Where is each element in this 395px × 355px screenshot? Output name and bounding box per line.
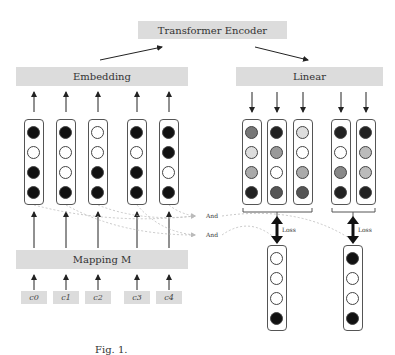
- up-arrows-tokens: [34, 275, 169, 290]
- token-c3: c3: [124, 291, 150, 304]
- node-circle: [270, 126, 283, 139]
- node-circle: [270, 252, 283, 265]
- node-circle: [270, 186, 283, 199]
- node-circle: [359, 186, 372, 199]
- node-circle: [91, 186, 104, 199]
- output-column-3: [331, 119, 351, 205]
- dashed-connectors: [34, 205, 352, 240]
- node-circle: [245, 166, 258, 179]
- node-circle: [162, 146, 175, 159]
- node-circle: [245, 146, 258, 159]
- up-arrows-mapping: [34, 212, 169, 248]
- loss-label-2: Loss: [358, 226, 372, 233]
- transformer-encoder-label: Transformer Encoder: [158, 25, 267, 36]
- node-circle: [162, 186, 175, 199]
- figure-caption: Fig. 1.: [95, 344, 127, 355]
- token-c4: c4: [156, 291, 182, 304]
- node-circle: [91, 146, 104, 159]
- output-column-0: [242, 119, 262, 205]
- node-circle: [346, 312, 359, 325]
- node-circle: [296, 146, 309, 159]
- node-circle: [334, 126, 347, 139]
- node-circle: [270, 292, 283, 305]
- node-circle: [130, 146, 143, 159]
- token-c1: c1: [53, 291, 79, 304]
- embedding-label: Embedding: [73, 71, 131, 82]
- node-circle: [130, 126, 143, 139]
- node-circle: [27, 186, 40, 199]
- node-circle: [91, 126, 104, 139]
- input-column-3: [127, 119, 147, 205]
- node-circle: [334, 186, 347, 199]
- input-column-1: [56, 119, 76, 205]
- node-circle: [162, 166, 175, 179]
- node-circle: [334, 146, 347, 159]
- down-arrows-linear: [252, 92, 366, 112]
- node-circle: [245, 186, 258, 199]
- node-circle: [27, 126, 40, 139]
- node-circle: [27, 146, 40, 159]
- output-column-1: [267, 119, 287, 205]
- node-circle: [162, 126, 175, 139]
- linear-label: Linear: [293, 71, 326, 82]
- node-circle: [59, 166, 72, 179]
- node-circle: [270, 272, 283, 285]
- node-circle: [59, 186, 72, 199]
- mapping-block: Mapping M: [16, 250, 188, 269]
- node-circle: [334, 166, 347, 179]
- mapping-label: Mapping M: [73, 254, 131, 265]
- node-circle: [296, 126, 309, 139]
- arrow-embedding-to-transformer: [100, 47, 162, 60]
- embedding-block: Embedding: [16, 67, 188, 86]
- and-label-2: And: [206, 231, 218, 238]
- target-column-0: [267, 245, 287, 331]
- input-column-2: [88, 119, 108, 205]
- node-circle: [346, 272, 359, 285]
- output-column-2: [293, 119, 313, 205]
- node-circle: [245, 126, 258, 139]
- loss-label-1: Loss: [282, 226, 296, 233]
- output-column-4: [356, 119, 376, 205]
- node-circle: [130, 186, 143, 199]
- node-circle: [130, 166, 143, 179]
- token-c0: c0: [21, 291, 47, 304]
- node-circle: [359, 166, 372, 179]
- linear-block: Linear: [236, 67, 383, 86]
- node-circle: [59, 146, 72, 159]
- node-circle: [359, 146, 372, 159]
- node-circle: [27, 166, 40, 179]
- node-circle: [270, 146, 283, 159]
- node-circle: [346, 292, 359, 305]
- node-circle: [270, 312, 283, 325]
- node-circle: [346, 252, 359, 265]
- target-column-1: [343, 245, 363, 331]
- transformer-encoder-block: Transformer Encoder: [138, 21, 287, 39]
- and-label-1: And: [206, 212, 218, 219]
- token-c2: c2: [85, 291, 111, 304]
- up-arrows-embedding: [34, 92, 169, 112]
- node-circle: [296, 186, 309, 199]
- input-column-4: [159, 119, 179, 205]
- node-circle: [270, 166, 283, 179]
- node-circle: [59, 126, 72, 139]
- input-column-0: [24, 119, 44, 205]
- node-circle: [91, 166, 104, 179]
- group-brackets: [243, 208, 375, 218]
- node-circle: [359, 126, 372, 139]
- node-circle: [296, 166, 309, 179]
- arrow-transformer-to-linear: [255, 47, 308, 60]
